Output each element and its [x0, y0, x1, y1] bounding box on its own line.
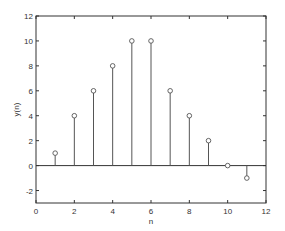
- stem-marker: [245, 176, 250, 181]
- y-tick-label: 8: [29, 62, 34, 71]
- x-tick-label: 6: [149, 207, 154, 216]
- y-tick-label: 0: [29, 162, 34, 171]
- x-tick-label: 2: [72, 207, 77, 216]
- y-tick-label: 2: [29, 137, 34, 146]
- plot-area: 024681012-2024681012ny(n): [12, 12, 271, 226]
- x-tick-label: 8: [187, 207, 192, 216]
- y-tick-label: -2: [26, 187, 34, 196]
- y-tick-label: 4: [29, 112, 34, 121]
- stem-marker: [206, 138, 211, 143]
- y-axis-label: y(n): [12, 102, 21, 116]
- stem-marker: [225, 163, 230, 168]
- y-tick-label: 12: [24, 12, 33, 21]
- x-tick-label: 12: [262, 207, 271, 216]
- stem-marker: [91, 89, 96, 94]
- stem-marker: [72, 113, 77, 118]
- stem-marker: [149, 39, 154, 44]
- x-tick-label: 0: [34, 207, 39, 216]
- x-tick-label: 4: [110, 207, 115, 216]
- stem-marker: [168, 89, 173, 94]
- x-axis-label: n: [149, 217, 153, 226]
- stem-marker: [53, 151, 58, 156]
- stem-marker: [110, 64, 115, 69]
- stem-plot: 024681012-2024681012ny(n): [0, 0, 285, 231]
- stem-marker: [130, 39, 135, 44]
- stem-marker: [187, 113, 192, 118]
- x-tick-label: 10: [223, 207, 232, 216]
- y-tick-label: 10: [24, 37, 33, 46]
- y-tick-label: 6: [29, 87, 34, 96]
